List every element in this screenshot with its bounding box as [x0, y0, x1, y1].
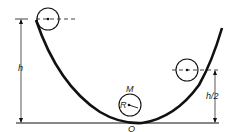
- h-arrow-down: [19, 118, 23, 123]
- h-label: h: [18, 63, 23, 73]
- origin-label: O: [128, 124, 135, 132]
- mass-label: M: [126, 84, 134, 94]
- parabolic-track: [36, 20, 222, 123]
- h-half-arrow-down: [213, 118, 217, 123]
- rolling-ball-diagram: h h/2 M R O: [0, 0, 235, 132]
- h-half-arrow-up: [213, 70, 217, 75]
- h-half-label: h/2: [206, 91, 219, 101]
- radius-label: R: [120, 100, 127, 110]
- h-arrow-up: [19, 19, 23, 24]
- radius-line: [129, 105, 138, 108]
- ball-top-center-dot: [47, 18, 50, 21]
